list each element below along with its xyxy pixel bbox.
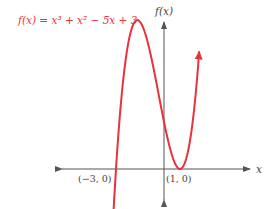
annotation-root-1: (1, 0) [166, 173, 192, 184]
y-axis-label: f(x) [154, 5, 173, 17]
function-label: f(x) = x³ + x² − 5x + 3 [17, 14, 138, 26]
function-graph: f(x) = x³ + x² − 5x + 3 f(x) x (−3, 0) (… [0, 0, 271, 209]
annotation-root-neg3: (−3, 0) [78, 173, 112, 184]
x-axis-label: x [256, 163, 262, 175]
